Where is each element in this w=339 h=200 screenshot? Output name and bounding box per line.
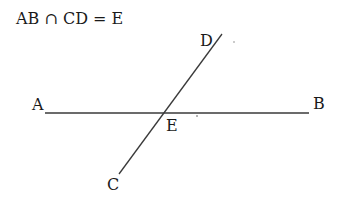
stray-dot xyxy=(233,41,235,43)
point-label-b: B xyxy=(313,96,325,112)
stray-dot xyxy=(196,115,198,117)
point-label-c: C xyxy=(107,177,119,193)
line-cd xyxy=(119,34,222,174)
point-label-e: E xyxy=(166,118,178,134)
diagram-canvas xyxy=(0,0,339,200)
point-label-a: A xyxy=(32,97,44,113)
point-label-d: D xyxy=(200,33,213,49)
